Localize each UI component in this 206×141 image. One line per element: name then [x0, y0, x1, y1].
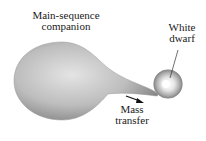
companion-label-line2: companion: [26, 21, 106, 32]
white-dwarf-label-line2: dwarf: [164, 33, 200, 44]
binary-star-diagram: Main-sequence companion White dwarf Mass…: [0, 0, 206, 141]
white-dwarf-label: White dwarf: [164, 22, 200, 44]
companion-label: Main-sequence companion: [26, 10, 106, 32]
white-dwarf: [162, 80, 170, 88]
mass-transfer-label: Mass transfer: [112, 104, 152, 126]
mass-transfer-label-line2: transfer: [112, 115, 152, 126]
